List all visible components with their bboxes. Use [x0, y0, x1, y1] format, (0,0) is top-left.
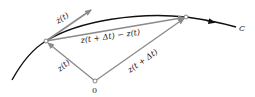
- label-tangent: ż(t): [53, 11, 70, 27]
- label-curve-c: C: [239, 24, 245, 33]
- label-z-t-dt: z(t + Δt): [125, 48, 159, 76]
- curve-c: [12, 16, 236, 80]
- vector-z-t-dt: [95, 19, 184, 82]
- label-origin: 0: [92, 86, 97, 95]
- vector-z-t: [48, 43, 95, 81]
- derivative-diagram: ż(t) z(t + Δt) − z(t) z(t) z(t + Δt) 0 C: [0, 0, 255, 97]
- point-origin: [93, 79, 97, 83]
- point-p: [44, 39, 48, 43]
- point-q: [184, 15, 188, 19]
